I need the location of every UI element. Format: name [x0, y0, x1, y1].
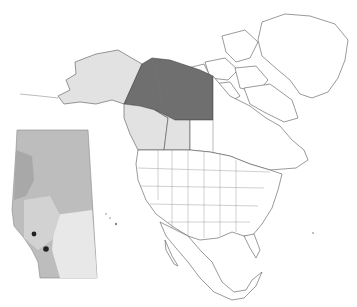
north-america-map: [0, 0, 357, 307]
marker-2: [43, 246, 49, 252]
hawaii: [105, 213, 117, 225]
arctic-islands: [222, 30, 258, 62]
marker-1: [32, 232, 37, 237]
alberta-inset: [12, 130, 97, 278]
